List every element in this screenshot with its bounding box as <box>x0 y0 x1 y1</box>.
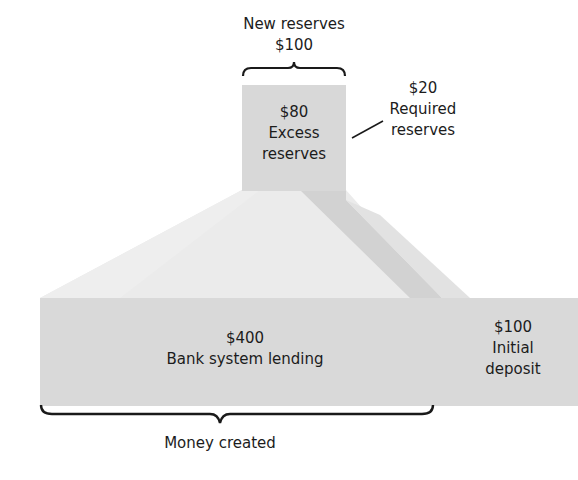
new-reserves-brace <box>243 62 345 76</box>
diagram-graphics <box>0 0 578 480</box>
money-created-title: Money created <box>140 433 300 454</box>
money-multiplier-diagram: New reserves $100 $80 Excess reserves $2… <box>0 0 578 480</box>
required-reserves-line2: reserves <box>368 120 478 141</box>
new-reserves-title: New reserves <box>214 14 374 35</box>
initial-deposit-label: $100 Initial deposit <box>448 317 578 380</box>
initial-deposit-line1: Initial <box>448 338 578 359</box>
initial-deposit-line2: deposit <box>448 359 578 380</box>
excess-reserves-label: $80 Excess reserves <box>242 102 346 165</box>
bank-lending-title: Bank system lending <box>100 349 390 370</box>
money-created-brace <box>41 405 433 423</box>
new-reserves-label: New reserves $100 <box>214 14 374 56</box>
excess-reserves-amount: $80 <box>242 102 346 123</box>
required-reserves-line1: Required <box>368 99 478 120</box>
bank-lending-amount: $400 <box>100 328 390 349</box>
new-reserves-amount: $100 <box>214 35 374 56</box>
money-created-label: Money created <box>140 433 300 454</box>
excess-reserves-line1: Excess <box>242 123 346 144</box>
initial-deposit-amount: $100 <box>448 317 578 338</box>
excess-reserves-line2: reserves <box>242 144 346 165</box>
bank-lending-label: $400 Bank system lending <box>100 328 390 370</box>
required-reserves-label: $20 Required reserves <box>368 78 478 141</box>
required-reserves-amount: $20 <box>368 78 478 99</box>
